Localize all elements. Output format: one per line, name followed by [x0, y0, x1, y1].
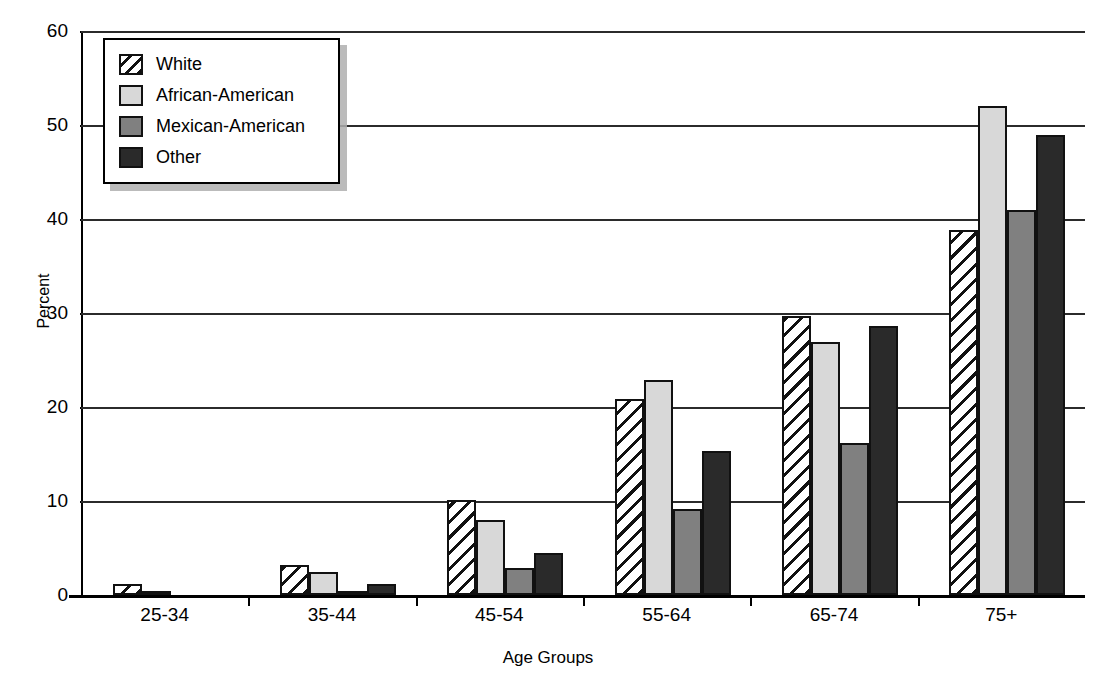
x-axis-title: Age Groups [0, 648, 1096, 668]
x-axis-tick-label: 75+ [918, 604, 1085, 626]
y-axis-tick-label: 10 [24, 491, 68, 510]
legend-item-white: White [119, 49, 328, 80]
legend-swatch-other [119, 147, 143, 168]
legend-label-african-american: African-American [156, 85, 294, 106]
x-axis-tick-label: 45-54 [416, 604, 583, 626]
legend-label-mexican-american: Mexican-American [156, 116, 305, 137]
bar-chart: Percent 0102030405060 25-3435-4445-5455-… [0, 0, 1096, 684]
x-axis-tick-label: 25-34 [81, 604, 248, 626]
y-axis-tick-label: 40 [24, 209, 68, 228]
legend-swatch-mexican-american [119, 116, 143, 137]
y-axis-tick-label: 20 [24, 397, 68, 416]
legend-item-other: Other [119, 142, 328, 173]
y-axis-tick-label: 30 [24, 303, 68, 322]
bar [1007, 210, 1036, 595]
x-axis-tick-label: 55-64 [583, 604, 750, 626]
legend-label-white: White [156, 54, 202, 75]
bar [1036, 135, 1065, 595]
y-axis-tick-label: 0 [24, 585, 68, 604]
y-axis-tick-label: 50 [24, 115, 68, 134]
y-axis-tick-labels: 0102030405060 [10, 0, 68, 684]
bar [949, 230, 978, 595]
x-axis-line [69, 595, 1085, 598]
legend-swatch-african-american [119, 85, 143, 106]
bar [978, 106, 1007, 595]
legend-item-mexican-american: Mexican-American [119, 111, 328, 142]
x-axis-tick-label: 35-44 [248, 604, 415, 626]
x-axis-tick-label: 65-74 [750, 604, 917, 626]
legend-item-african-american: African-American [119, 80, 328, 111]
y-axis-tick-label: 60 [24, 21, 68, 40]
chart-legend: White African-American Mexican-American … [103, 38, 340, 184]
legend-label-other: Other [156, 147, 201, 168]
legend-swatch-white [119, 54, 143, 75]
